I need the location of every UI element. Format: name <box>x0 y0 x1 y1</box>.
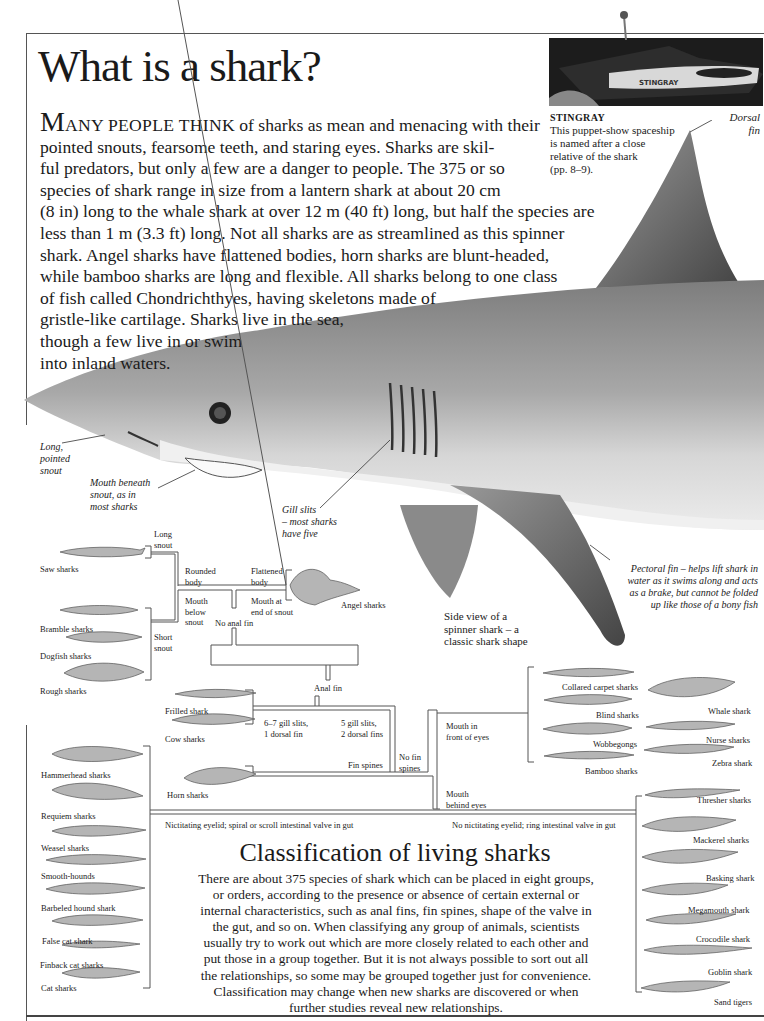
classification-line: usually try to work out which are more c… <box>172 935 620 951</box>
species-requiem-sharks: Requiem sharks <box>41 811 96 821</box>
species-barbeled-hound-shark: Barbeled hound shark <box>41 903 116 913</box>
species-collared-carpet-sharks: Collared carpet sharks <box>562 682 638 692</box>
species-zebra-shark: Zebra shark <box>712 758 752 768</box>
species-basking-shark: Basking shark <box>706 873 754 883</box>
species-crocodile-shark: Crocodile shark <box>696 934 750 944</box>
species-smooth-hounds: Smooth-hounds <box>41 871 95 881</box>
species-nurse-sharks: Nurse sharks <box>706 735 750 745</box>
classification-line: internal characteristics, such as anal f… <box>172 903 620 919</box>
classification-body: There are about 375 species of shark whi… <box>172 871 620 1016</box>
species-whale-shark: Whale shark <box>708 706 751 716</box>
species-saw-sharks: Saw sharks <box>40 564 78 574</box>
species-bramble-sharks: Bramble sharks <box>40 624 93 634</box>
classification-line: or orders, according to the presence or … <box>172 887 620 903</box>
classification-line: put those in a group together. But it is… <box>172 951 620 967</box>
species-weasel-sharks: Weasel sharks <box>41 843 89 853</box>
species-rough-sharks: Rough sharks <box>40 686 87 696</box>
species-cow-sharks: Cow sharks <box>165 734 205 744</box>
classification-line: the gut, and so on. When classifying any… <box>172 919 620 935</box>
species-cat-sharks: Cat sharks <box>41 983 77 993</box>
species-angel-sharks: Angel sharks <box>341 600 386 610</box>
species-goblin-shark: Goblin shark <box>708 967 752 977</box>
species-wobbegongs: Wobbegongs <box>593 739 637 749</box>
species-bamboo-sharks: Bamboo sharks <box>585 766 638 776</box>
species-blind-sharks: Blind sharks <box>596 710 639 720</box>
species-horn-sharks: Horn sharks <box>167 790 208 800</box>
species-sand-tigers: Sand tigers <box>714 997 752 1007</box>
species-hammerhead-sharks: Hammerhead sharks <box>41 770 111 780</box>
species-thresher-sharks: Thresher sharks <box>697 795 751 805</box>
classification-line: the relationships, so some may be groupe… <box>172 968 620 984</box>
species-frilled-shark: Frilled shark <box>165 706 208 716</box>
classification-line: further studies reveal new relationships… <box>172 1000 620 1016</box>
species-false-cat-shark: False cat shark <box>42 936 93 946</box>
species-finback-cat-sharks: Finback cat sharks <box>40 960 103 970</box>
classification-heading: Classification of living sharks <box>170 837 620 869</box>
species-megamouth-shark: Megamouth shark <box>688 905 750 915</box>
species-mackerel-sharks: Mackerel sharks <box>693 835 749 845</box>
classification-line: There are about 375 species of shark whi… <box>172 871 620 887</box>
classification-line: Classification may change when new shark… <box>172 984 620 1000</box>
species-dogfish-sharks: Dogfish sharks <box>40 651 91 661</box>
